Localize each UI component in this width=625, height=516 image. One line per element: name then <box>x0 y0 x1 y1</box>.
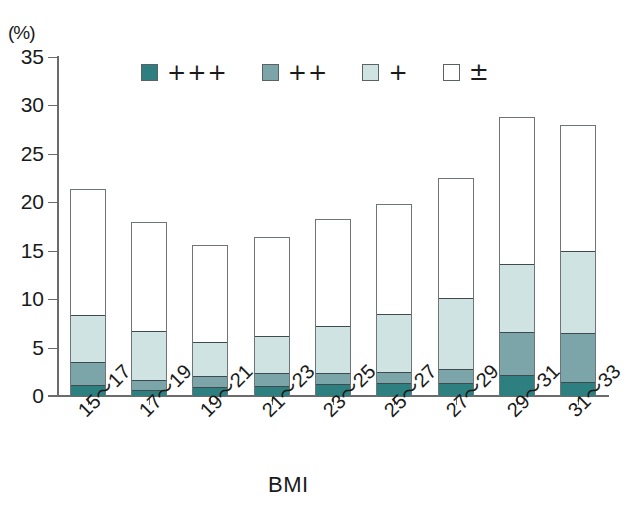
bar-segment <box>132 223 166 332</box>
legend-swatch <box>262 64 279 81</box>
y-axis-unit-label: (%) <box>8 22 35 44</box>
bar-segment <box>561 251 595 333</box>
y-axis-tick <box>48 396 57 397</box>
y-axis-tick-label: 0 <box>0 385 44 406</box>
y-axis-tick-label: 35 <box>0 46 44 67</box>
bar-segment <box>500 264 534 333</box>
bar-segment <box>439 179 473 298</box>
legend-label: ++ <box>288 62 329 82</box>
x-axis-title: BMI <box>268 472 309 498</box>
bar-segment <box>500 118 534 264</box>
bar-segment <box>377 314 411 372</box>
legend-label: + <box>388 62 408 82</box>
bar-stack <box>376 204 412 396</box>
bar-stack <box>499 117 535 396</box>
y-axis-tick-label: 20 <box>0 191 44 212</box>
bar-segment <box>377 205 411 314</box>
legend-swatch <box>141 64 158 81</box>
bar-stack <box>560 125 596 396</box>
bar-segment <box>71 190 105 315</box>
y-axis-tick <box>48 202 57 203</box>
bar-segment <box>316 220 350 326</box>
y-axis-tick-label: 10 <box>0 288 44 309</box>
legend-item: + <box>362 62 442 82</box>
y-axis-tick <box>48 251 57 252</box>
y-axis-tick <box>48 105 57 106</box>
bar-segment <box>439 298 473 369</box>
legend-swatch <box>443 64 460 81</box>
bar-segment <box>561 126 595 251</box>
y-axis-tick <box>48 299 57 300</box>
legend-label: +++ <box>167 62 228 82</box>
bar-stack <box>315 219 351 396</box>
bar-segment <box>255 336 289 373</box>
legend-item: +++ <box>141 62 262 82</box>
bar-stack <box>70 189 106 396</box>
y-axis-tick <box>48 348 57 349</box>
y-axis-tick-label: 30 <box>0 94 44 115</box>
bar-stack <box>438 178 474 396</box>
bar-segment <box>316 326 350 373</box>
bar-segment <box>193 246 227 342</box>
bar-segment <box>500 332 534 374</box>
legend-item: ++ <box>262 62 363 82</box>
y-axis-tick-label: 5 <box>0 337 44 358</box>
bar-segment <box>71 315 105 362</box>
legend-label: ± <box>469 62 490 82</box>
plot-area <box>57 57 609 396</box>
y-axis-tick-label: 15 <box>0 240 44 261</box>
y-axis-tick-label: 25 <box>0 143 44 164</box>
y-axis-tick <box>48 154 57 155</box>
legend-item: ± <box>443 62 490 82</box>
chart-legend: ++++++± <box>141 62 490 82</box>
y-axis-tick <box>48 57 57 58</box>
legend-swatch <box>362 64 379 81</box>
bar-segment <box>255 238 289 336</box>
